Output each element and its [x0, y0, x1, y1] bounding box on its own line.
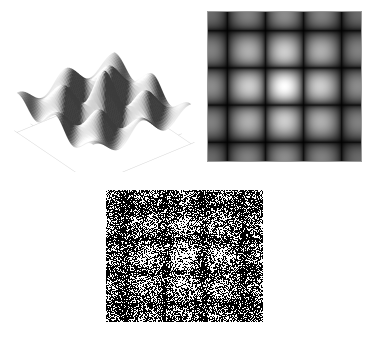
figure-root	[0, 0, 373, 339]
panel-dithered-noise-image	[106, 190, 263, 322]
panel-grayscale-heatmap	[207, 11, 362, 162]
dither-image-canvas	[106, 190, 263, 322]
heatmap-image-canvas	[207, 11, 362, 162]
panel-3d-surface-plot	[8, 4, 200, 172]
surface-plot-canvas	[8, 4, 200, 172]
